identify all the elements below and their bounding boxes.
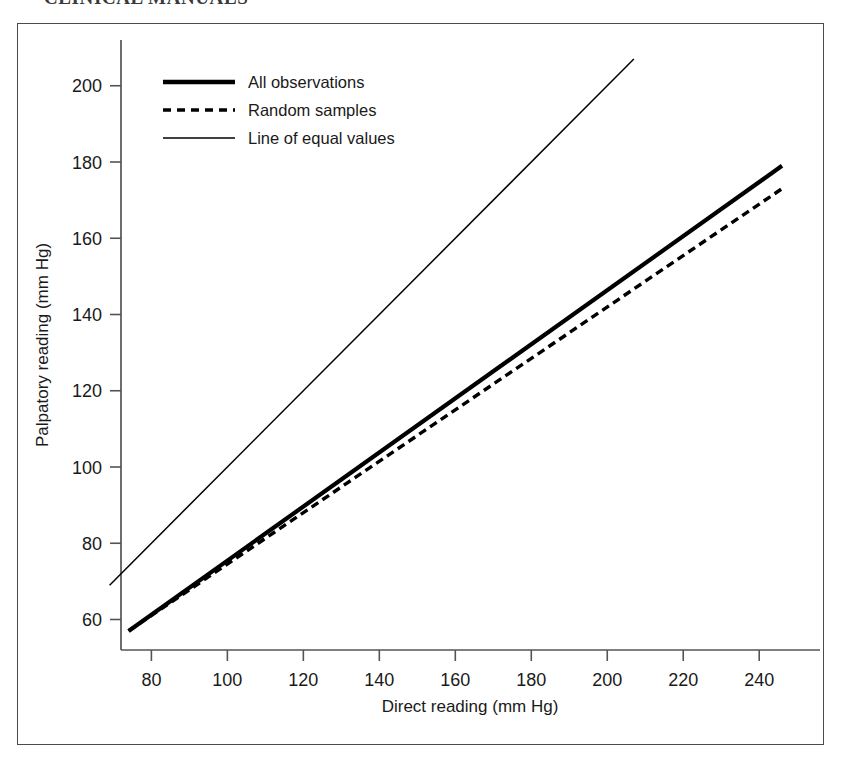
x-tick-label: 220 [668, 670, 698, 690]
y-tick-label: 120 [72, 381, 102, 401]
legend-label: All observations [248, 73, 364, 91]
y-axis-title: Palpatory reading (mm Hg) [33, 243, 52, 447]
y-tick-label: 180 [72, 153, 102, 173]
y-tick-label: 140 [72, 305, 102, 325]
y-tick-label: 200 [72, 76, 102, 96]
y-tick-label: 160 [72, 229, 102, 249]
line-chart: 6080100120140160180200 80100120140160180… [0, 0, 841, 772]
x-axis-tick-labels: 80100120140160180200220240 [141, 670, 774, 690]
chart-canvas: 6080100120140160180200 80100120140160180… [0, 0, 841, 772]
x-tick-label: 80 [141, 670, 161, 690]
x-tick-label: 140 [364, 670, 394, 690]
legend-label: Random samples [248, 101, 376, 119]
series-line [129, 166, 782, 631]
y-axis-tick-labels: 6080100120140160180200 [72, 76, 102, 630]
y-axis-ticks [110, 86, 121, 620]
series-lines [110, 59, 782, 631]
x-tick-label: 120 [288, 670, 318, 690]
legend-label: Line of equal values [248, 129, 395, 147]
x-tick-label: 200 [592, 670, 622, 690]
y-tick-label: 100 [72, 458, 102, 478]
y-tick-label: 60 [82, 610, 102, 630]
x-axis-ticks [151, 650, 759, 661]
x-tick-label: 160 [440, 670, 470, 690]
chart-legend: All observationsRandom samplesLine of eq… [163, 73, 395, 147]
x-tick-label: 100 [212, 670, 242, 690]
x-tick-label: 240 [744, 670, 774, 690]
figure-page: CLINICAL MANUALS 6080100120140160180200 … [0, 0, 841, 772]
x-axis-title: Direct reading (mm Hg) [382, 697, 559, 716]
series-line [129, 189, 782, 631]
y-tick-label: 80 [82, 534, 102, 554]
x-tick-label: 180 [516, 670, 546, 690]
